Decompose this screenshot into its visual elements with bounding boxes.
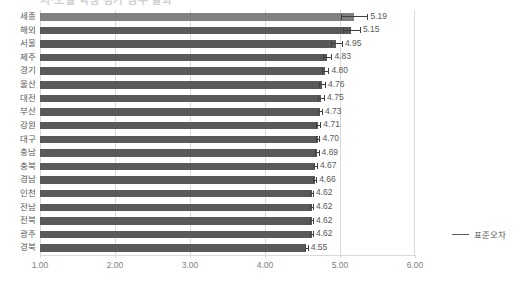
error-bar-cap [360, 27, 361, 33]
bar-value-label: 4.67 [320, 159, 337, 173]
x-tick-label: 6.00 [395, 260, 435, 270]
error-bar-cap [316, 136, 317, 142]
plot-area: 5.195.154.954.834.804.764.754.734.714.70… [40, 10, 415, 255]
x-tick-mark [265, 255, 266, 258]
x-tick-mark [340, 255, 341, 258]
error-bar-cap [367, 14, 368, 20]
bar-row[interactable]: 4.95 [40, 37, 415, 51]
category-label-경남: 경남 [0, 173, 36, 187]
category-label-광주: 광주 [0, 228, 36, 242]
bar-row[interactable]: 4.55 [40, 241, 415, 255]
bar[interactable] [40, 67, 325, 75]
bar[interactable] [40, 81, 322, 89]
bar-row[interactable]: 4.83 [40, 51, 415, 65]
bar-row[interactable]: 4.67 [40, 160, 415, 174]
bar-value-label: 4.69 [322, 146, 339, 160]
bar[interactable] [40, 40, 336, 48]
bar-row[interactable]: 4.75 [40, 92, 415, 106]
error-bar-cap [310, 231, 311, 237]
bar-row[interactable]: 4.70 [40, 133, 415, 147]
error-bar-cap [342, 41, 343, 47]
category-label-대전: 대전 [0, 92, 36, 106]
bar-value-label: 5.15 [363, 23, 380, 37]
bar[interactable] [40, 163, 315, 171]
bar-value-label: 4.75 [327, 91, 344, 105]
bar[interactable] [40, 204, 312, 212]
category-label-충북: 충북 [0, 160, 36, 174]
bar-value-label: 4.62 [316, 186, 333, 200]
error-bar-cap [305, 245, 306, 251]
bar[interactable] [40, 231, 312, 239]
chart-title: 시·도별 학생 평가 점수 결과 [40, 0, 172, 7]
bar-row[interactable]: 4.76 [40, 78, 415, 92]
bar-row[interactable]: 4.73 [40, 105, 415, 119]
error-bar [331, 43, 342, 44]
bar-row[interactable]: 4.62 [40, 228, 415, 242]
bar-row[interactable]: 5.15 [40, 24, 415, 38]
bar[interactable] [40, 217, 312, 225]
error-bar-cap [331, 41, 332, 47]
legend-line-icon [452, 234, 469, 235]
error-bar-cap [318, 109, 319, 115]
category-label-경북: 경북 [0, 241, 36, 255]
bar-value-label: 4.95 [345, 37, 362, 51]
bar-row[interactable]: 4.66 [40, 173, 415, 187]
error-bar-cap [331, 54, 332, 60]
error-bar-cap [316, 177, 317, 183]
bar-value-label: 4.71 [323, 118, 340, 132]
error-bar-cap [324, 95, 325, 101]
category-label-경기: 경기 [0, 64, 36, 78]
category-label-제주: 제주 [0, 51, 36, 65]
x-tick-mark [415, 255, 416, 258]
bar-row[interactable]: 4.80 [40, 64, 415, 78]
error-bar [343, 30, 360, 31]
bar-row[interactable]: 4.71 [40, 119, 415, 133]
error-bar-cap [317, 163, 318, 169]
bar[interactable] [40, 149, 317, 157]
bar-value-label: 4.55 [311, 241, 328, 255]
bar-row[interactable]: 4.69 [40, 146, 415, 160]
error-bar-cap [313, 177, 314, 183]
bar-value-label: 4.83 [334, 50, 351, 64]
error-bar-cap [325, 82, 326, 88]
bar-row[interactable]: 4.62 [40, 214, 415, 228]
bar-row[interactable]: 4.62 [40, 187, 415, 201]
x-tick-mark [40, 255, 41, 258]
error-bar-cap [310, 218, 311, 224]
bar[interactable] [40, 95, 321, 103]
error-bar-cap [328, 68, 329, 74]
category-label-세종: 세종 [0, 10, 36, 24]
error-bar-cap [314, 163, 315, 169]
error-bar-cap [318, 95, 319, 101]
bar-value-label: 4.76 [328, 78, 345, 92]
category-label-울산: 울산 [0, 78, 36, 92]
bar-value-label: 4.62 [316, 200, 333, 214]
error-bar-cap [310, 204, 311, 210]
category-label-인천: 인천 [0, 187, 36, 201]
bar[interactable] [40, 244, 306, 252]
x-tick-label: 4.00 [245, 260, 285, 270]
error-bar-cap [315, 150, 316, 156]
bar[interactable] [40, 176, 315, 184]
x-axis-line [40, 255, 415, 256]
bar[interactable] [40, 13, 354, 21]
error-bar-cap [313, 191, 314, 197]
bar[interactable] [40, 122, 318, 130]
error-bar-cap [316, 122, 317, 128]
category-label-전북: 전북 [0, 214, 36, 228]
bar-row[interactable]: 5.19 [40, 10, 415, 24]
error-bar-cap [308, 245, 309, 251]
bar[interactable] [40, 54, 327, 62]
bar[interactable] [40, 108, 320, 116]
error-bar-cap [341, 14, 342, 20]
x-tick-label: 1.00 [20, 260, 60, 270]
bar-value-label: 4.62 [316, 227, 333, 241]
error-bar-cap [313, 231, 314, 237]
error-bar-cap [343, 27, 344, 33]
bar[interactable] [40, 136, 318, 144]
error-bar [323, 57, 331, 58]
bar-row[interactable]: 4.62 [40, 201, 415, 215]
bar[interactable] [40, 190, 312, 198]
bar[interactable] [40, 27, 351, 35]
category-axis-labels: 세종해외서울제주경기울산대전부산강원대구충남충북경남인천전남전북광주경북 [0, 10, 36, 255]
